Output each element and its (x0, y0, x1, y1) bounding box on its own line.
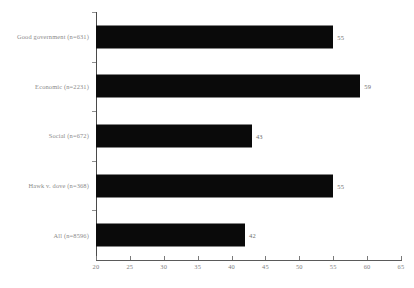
bar-value-label: 59 (364, 83, 371, 90)
value-axis-tick-label: 55 (330, 263, 337, 270)
category-label-text: All (n=8596) (54, 232, 92, 239)
value-axis-tick-label: 20 (93, 263, 100, 270)
value-axis-tick (232, 256, 233, 260)
category-label-text: Hawk v. dove (n=368) (29, 182, 93, 189)
category-label: All (n=8596) (0, 210, 92, 260)
value-axis-tick-label: 25 (126, 263, 133, 270)
value-axis-tick (299, 256, 300, 260)
bar-row: 55 (96, 161, 401, 211)
bar[interactable] (96, 25, 333, 48)
value-axis-tick-label: 45 (262, 263, 269, 270)
bar-row: 55 (96, 12, 401, 62)
value-axis-tick-label: 65 (398, 263, 405, 270)
value-axis-line (96, 260, 402, 261)
value-axis-tick (164, 256, 165, 260)
bar-row: 59 (96, 62, 401, 112)
bar-chart: Good government (n=631)Economic (n=2231)… (0, 0, 414, 288)
value-axis-tick (130, 256, 131, 260)
value-axis-tick-label: 40 (228, 263, 235, 270)
value-axis-tick-label: 60 (364, 263, 371, 270)
bar-value-label: 43 (256, 132, 263, 139)
bar[interactable] (96, 124, 252, 147)
category-label: Social (n=672) (0, 111, 92, 161)
bar-row: 42 (96, 210, 401, 260)
category-label-text: Good government (n=631) (17, 33, 92, 40)
bar-value-label: 55 (337, 182, 344, 189)
value-axis-tick (265, 256, 266, 260)
bar[interactable] (96, 224, 245, 247)
category-label: Economic (n=2231) (0, 62, 92, 112)
value-axis-tick-label: 35 (194, 263, 201, 270)
value-axis-tick (198, 256, 199, 260)
bar-value-label: 55 (337, 33, 344, 40)
value-axis-tick-label: 30 (160, 263, 167, 270)
category-label-text: Economic (n=2231) (35, 83, 92, 90)
bar-row: 43 (96, 111, 401, 161)
value-axis-tick (333, 256, 334, 260)
value-axis-tick-label: 50 (296, 263, 303, 270)
value-axis-tick (96, 256, 97, 260)
bar[interactable] (96, 75, 360, 98)
category-label-text: Social (n=672) (49, 132, 92, 139)
category-label: Good government (n=631) (0, 12, 92, 62)
value-axis-tick (367, 256, 368, 260)
category-label: Hawk v. dove (n=368) (0, 161, 92, 211)
value-axis-tick (401, 256, 402, 260)
bar-value-label: 42 (249, 232, 256, 239)
bars-group: 5559435542 (96, 12, 401, 260)
bar[interactable] (96, 174, 333, 197)
